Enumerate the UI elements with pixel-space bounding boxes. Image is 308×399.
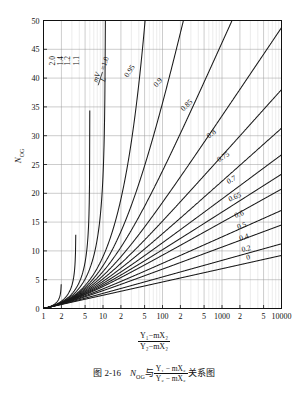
curve-label-1.2: 1.2 xyxy=(63,56,72,66)
x-tick-label: 5 xyxy=(143,312,147,321)
curve-label-0.4: 0.4 xyxy=(238,231,250,242)
figure-caption: 图 2-16 NOG与Y₁ − mX₂Y₂ − mX₂关系图 xyxy=(0,364,308,384)
curve-mvl-1.2 xyxy=(44,110,90,308)
curve-label-0.65: 0.65 xyxy=(227,190,243,204)
y-axis-tick-labels: 05101520253035404550 xyxy=(32,17,40,314)
x-tick-label: 5 xyxy=(202,312,206,321)
curve-value-labels: 2.01.41.21.1mVL=1.00.950.90.850.80.750.7… xyxy=(48,54,252,262)
x-tick-label: 2 xyxy=(119,312,123,321)
y-tick-label: 5 xyxy=(36,276,40,285)
y-tick-label: 35 xyxy=(32,103,40,112)
y-axis-title-subscript: OG xyxy=(19,149,25,158)
x-tick-label: 5 xyxy=(262,312,266,321)
curve-mvl-1.0 xyxy=(44,0,149,309)
y-axis-title-symbol: N xyxy=(13,157,23,163)
x-tick-label: 10000 xyxy=(272,312,292,321)
y-axis-title: NOG xyxy=(13,139,25,173)
caption-symbol-subscript: OG xyxy=(136,374,145,380)
x-tick-label: 2 xyxy=(238,312,242,321)
x-axis-title: Y₁−mX₂ Y₂−mX₂ xyxy=(0,331,308,352)
y-tick-label: 45 xyxy=(32,45,40,54)
y-tick-label: 25 xyxy=(32,161,40,170)
x-tick-label: 2 xyxy=(59,312,63,321)
y-tick-label: 10 xyxy=(32,247,40,256)
caption-connector: 与 xyxy=(145,368,154,378)
y-tick-label: 0 xyxy=(36,305,40,314)
x-tick-label: 1 xyxy=(42,312,46,321)
caption-fraction-denominator: Y₂ − mX₂ xyxy=(154,374,188,383)
y-tick-label: 20 xyxy=(32,189,40,198)
y-tick-label: 50 xyxy=(32,17,40,26)
y-tick-label: 15 xyxy=(32,218,40,227)
curve-mvl-0.95 xyxy=(44,0,192,309)
caption-fraction-numerator: Y₁ − mX₂ xyxy=(154,364,188,374)
curve-label-1.1: 1.1 xyxy=(72,56,81,66)
y-tick-label: 40 xyxy=(32,74,40,83)
caption-number: 图 2-16 xyxy=(93,368,121,378)
curve-label-0.5: 0.5 xyxy=(236,220,248,232)
curve-label-0.85: 0.85 xyxy=(179,97,195,113)
caption-suffix: 关系图 xyxy=(188,368,215,378)
curve-label-0.7: 0.7 xyxy=(225,173,238,185)
x-axis-tick-labels: 12510251002510002510000 xyxy=(42,312,292,321)
svg-text:=1.0: =1.0 xyxy=(98,55,111,71)
curve-label-0.75: 0.75 xyxy=(215,149,231,164)
x-tick-label: 100 xyxy=(157,312,169,321)
curve-label-0.95: 0.95 xyxy=(122,63,137,79)
x-tick-label: 2 xyxy=(178,312,182,321)
x-tick-label: 10 xyxy=(99,312,107,321)
y-tick-label: 30 xyxy=(32,132,40,141)
x-axis-title-denominator: Y₂−mX₂ xyxy=(138,342,170,352)
caption-fraction: Y₁ − mX₂Y₂ − mX₂ xyxy=(154,364,188,384)
x-tick-label: 1000 xyxy=(214,312,230,321)
x-axis-title-numerator: Y₁−mX₂ xyxy=(138,331,170,342)
x-axis-title-fraction: Y₁−mX₂ Y₂−mX₂ xyxy=(138,331,170,352)
x-tick-label: 5 xyxy=(83,312,87,321)
figure-container: 05101520253035404550 1251025100251000251… xyxy=(0,0,308,399)
